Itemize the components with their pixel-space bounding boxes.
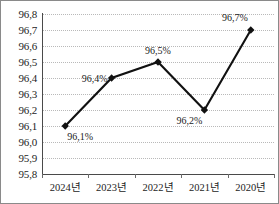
x-tick-mark <box>135 174 136 178</box>
y-tick-label: 96,5 <box>1 57 37 68</box>
gridline <box>42 158 274 159</box>
gridline <box>42 30 274 31</box>
data-point-label: 96,5% <box>128 46 188 56</box>
y-tick-label: 96,2 <box>1 105 37 116</box>
y-tick-label: 96,0 <box>1 137 37 148</box>
gridline <box>42 62 274 63</box>
x-tick-label: 2020년 <box>223 182 279 194</box>
x-axis-line <box>42 174 275 175</box>
x-tick-mark <box>42 174 43 178</box>
line-chart: 96,896,796,696,596,496,396,296,196,095,9… <box>0 0 279 204</box>
x-tick-mark <box>181 174 182 178</box>
y-tick-label: 95,8 <box>1 169 37 180</box>
gridlines <box>42 14 274 174</box>
x-tick-mark <box>228 174 229 178</box>
data-point-label: 96,1% <box>67 132 93 142</box>
data-point-label: 96,7% <box>1 13 248 23</box>
gridline <box>42 94 274 95</box>
x-tick-mark <box>88 174 89 178</box>
data-point-label: 96,2% <box>1 116 202 126</box>
y-axis-line <box>42 13 43 175</box>
y-tick-label: 96,3 <box>1 89 37 100</box>
y-tick-label: 96,7 <box>1 25 37 36</box>
y-tick-label: 96,6 <box>1 41 37 52</box>
gridline <box>42 110 274 111</box>
gridline <box>42 142 274 143</box>
data-point-label: 96,4% <box>1 74 108 84</box>
y-tick-label: 95,9 <box>1 153 37 164</box>
x-tick-mark <box>274 174 275 178</box>
gridline <box>42 126 274 127</box>
